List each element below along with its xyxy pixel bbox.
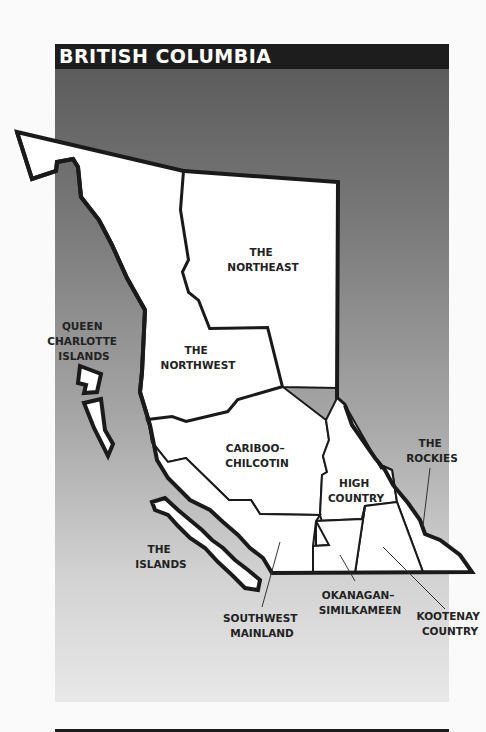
region-queen-charlotte-islands-north[interactable]	[78, 366, 101, 393]
bc-regions-map: THE NORTHEAST THE NORTHWEST QUEEN CHARLO…	[0, 0, 486, 732]
label-kootenay-country: KOOTENAY COUNTRY	[416, 610, 483, 637]
label-southwest-mainland: SOUTHWEST MAINLAND	[223, 612, 301, 639]
label-the-rockies: THE ROCKIES	[406, 437, 458, 464]
label-okanagan-similkameen: OKANAGAN– SIMILKAMEEN	[319, 589, 401, 616]
region-queen-charlotte-islands-south[interactable]	[84, 399, 113, 456]
leader-line-rockies	[423, 468, 430, 526]
label-the-islands: THE ISLANDS	[135, 543, 186, 570]
label-queen-charlotte-islands: QUEEN CHARLOTTE ISLANDS	[47, 320, 120, 362]
